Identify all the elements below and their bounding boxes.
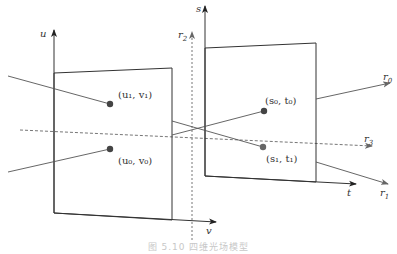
point-u1v1: [107, 101, 113, 107]
ray-r0-out: [316, 83, 390, 99]
ray-r3-label: r3: [364, 133, 374, 147]
s-axis-label: s: [196, 3, 201, 14]
point-u0v0: [107, 146, 113, 152]
point-s1t1: [260, 144, 266, 150]
ray-r0: [8, 149, 110, 172]
ray-r0-label: r0: [383, 71, 393, 85]
ray-r1: [8, 76, 110, 104]
point-u0v0-label: (u₀, v₀): [118, 155, 152, 166]
ray-r1-out: [316, 162, 388, 184]
point-s0t0: [261, 108, 267, 114]
u-axis-label: u: [40, 28, 46, 39]
light-field-diagram: u v s t r2 r0 r3 r1 (u₁, v₁) (u₀, v₀) (s…: [0, 0, 397, 254]
point-s1t1-label: (s₁, t₁): [266, 153, 297, 164]
ray-r1-label: r1: [380, 187, 389, 201]
point-s0t0-label: (s₀, t₀): [265, 95, 296, 106]
ray-r2-label: r2: [178, 29, 188, 43]
t-axis-label: t: [347, 187, 352, 198]
uv-plane: [54, 68, 172, 220]
ray-r3: [20, 130, 372, 146]
v-axis-label: v: [206, 225, 212, 236]
st-plane: [205, 43, 316, 182]
ray-r0-mid: [172, 111, 264, 135]
ray-r1-mid: [172, 121, 263, 147]
figure-caption: 图 5.10 四维光场模型: [0, 240, 397, 253]
t-axis: [205, 176, 356, 184]
point-u1v1-label: (u₁, v₁): [118, 89, 152, 100]
